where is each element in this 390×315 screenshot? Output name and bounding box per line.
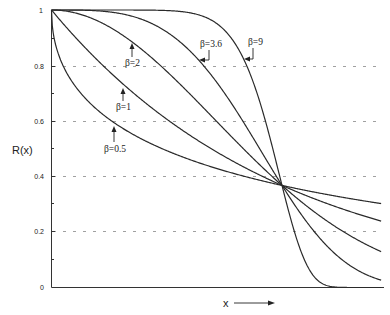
y-tick-label-0.6: 0.6 (34, 118, 44, 125)
curve-beta-9 (52, 10, 382, 288)
curves (52, 10, 382, 288)
axes (52, 10, 385, 288)
annotations: β=2 β=1 β=0.5 β=3.6 β=9 (104, 37, 263, 154)
y-tick-label-0: 0 (40, 284, 44, 291)
y-tick-label-0.4: 0.4 (34, 173, 44, 180)
annotation-beta-3.6: β=3.6 (199, 39, 222, 63)
gridlines (53, 67, 383, 232)
label-beta-0.5: β=0.5 (104, 144, 126, 154)
label-beta-1: β=1 (116, 102, 131, 112)
y-tick-label-1: 1 (39, 7, 43, 14)
y-tick-label-0.2: 0.2 (34, 228, 44, 235)
label-beta-2: β=2 (125, 58, 140, 68)
y-axis-title: R(x) (12, 144, 33, 156)
annotation-beta-1: β=1 (116, 88, 131, 112)
y-tick-labels: 1 0.8 0.6 0.4 0.2 0 (34, 7, 44, 291)
weibull-reliability-chart: 1 0.8 0.6 0.4 0.2 0 R(x) x β=2 β=1 β=0. (0, 0, 390, 315)
y-tick-label-0.8: 0.8 (34, 63, 44, 70)
curve-beta-3.6 (52, 10, 382, 280)
x-axis-title: x (223, 297, 229, 309)
x-direction-arrow-icon (234, 301, 275, 306)
label-beta-3.6: β=3.6 (200, 39, 222, 49)
annotation-beta-9: β=9 (244, 37, 263, 62)
annotation-beta-0.5: β=0.5 (104, 126, 126, 154)
label-beta-9: β=9 (248, 37, 263, 47)
